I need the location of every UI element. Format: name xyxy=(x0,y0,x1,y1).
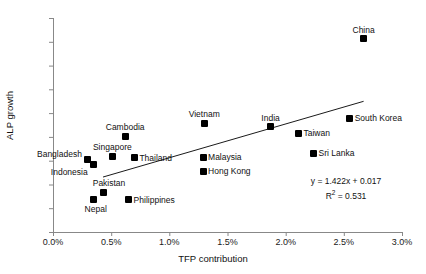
data-point xyxy=(122,133,129,140)
equation-line: y = 1.422x + 0.017 xyxy=(291,176,401,187)
x-tick-label: 1.5% xyxy=(217,238,238,247)
data-point xyxy=(109,153,116,160)
data-point-label: India xyxy=(261,114,279,123)
data-point-label: Thailand xyxy=(139,153,172,162)
data-point-label: Malaysia xyxy=(208,153,242,162)
x-tick-label: 2.0% xyxy=(275,238,296,247)
data-point-label: Sri Lanka xyxy=(319,149,355,158)
data-point xyxy=(131,154,138,161)
data-point xyxy=(295,130,302,137)
x-axis-title: TFP contribution xyxy=(0,253,426,264)
data-point-label: South Korea xyxy=(355,114,402,123)
data-point xyxy=(200,168,207,175)
r-squared-line: R2 = 0.531 xyxy=(291,187,401,202)
r-squared-value: = 0.531 xyxy=(335,191,366,201)
data-point xyxy=(90,196,97,203)
data-point-label: Nepal xyxy=(85,205,107,214)
regression-equation: y = 1.422x + 0.017 R2 = 0.531 xyxy=(291,176,401,202)
data-point xyxy=(360,35,367,42)
data-point-label: China xyxy=(353,26,375,35)
x-tick-label: 0.0% xyxy=(43,238,64,247)
x-tick-label: 2.5% xyxy=(334,238,355,247)
data-point-label: Cambodia xyxy=(106,123,145,132)
x-tick-label: 3.0% xyxy=(392,238,413,247)
data-point-label: Hong Kong xyxy=(208,167,251,176)
data-point xyxy=(90,161,97,168)
y-axis-title: ALP growth xyxy=(4,71,15,161)
data-point-label: Pakistan xyxy=(93,179,126,188)
data-point-label: Indonesia xyxy=(51,167,88,176)
data-point-label: Bangladesh xyxy=(37,150,82,159)
data-point xyxy=(125,196,132,203)
scatter-chart: 0%1%2%3%4%5%6%7%8%9% 0.0%0.5%1.0%1.5%2.0… xyxy=(0,0,426,274)
data-point xyxy=(310,150,317,157)
data-point xyxy=(346,115,353,122)
x-tick-label: 1.0% xyxy=(159,238,180,247)
x-tick-label: 0.5% xyxy=(101,238,122,247)
data-point-label: Vietnam xyxy=(189,110,220,119)
data-point xyxy=(267,123,274,130)
data-point-label: Taiwan xyxy=(303,129,329,138)
x-axis-ticks xyxy=(54,232,403,236)
data-point xyxy=(99,189,106,196)
data-point xyxy=(201,120,208,127)
data-point-label: Philippines xyxy=(134,195,175,204)
data-point-label: Singapore xyxy=(93,143,132,152)
x-axis-tick-labels: 0.0%0.5%1.0%1.5%2.0%2.5%3.0% xyxy=(0,238,426,252)
data-point xyxy=(200,154,207,161)
